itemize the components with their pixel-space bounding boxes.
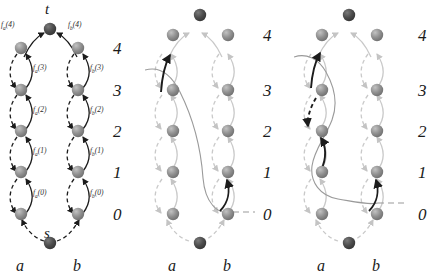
three-panel-graph-figure: t s fa(4) fa(3) fa(2) fa(1) fa(0) fb(4) … (0, 0, 444, 279)
level-label-4: 4 (263, 27, 272, 44)
node-b4 (371, 29, 383, 41)
edge-a2-up-a3 (171, 95, 177, 129)
level-label-4: 4 (418, 27, 427, 44)
level-label-2: 2 (113, 123, 122, 140)
edge-b4-down-b3 (361, 54, 368, 88)
node-a4 (15, 42, 27, 54)
panel-middle: 4 3 2 1 0 a b (145, 0, 295, 279)
node-a1 (167, 166, 179, 178)
level-label-1: 1 (263, 164, 272, 181)
right-panel-nodes (316, 9, 383, 249)
level-label-0: 0 (263, 206, 272, 223)
edge-b2-down-b1 (212, 137, 219, 171)
edge-label-fb2: fb(2) (90, 106, 104, 116)
level-label-3: 3 (113, 82, 122, 99)
edge-highlight-a1-to-a2 (321, 138, 325, 170)
edge-a3-down-a2 (10, 95, 17, 129)
edge-highlight-a3-to-a2 (308, 98, 316, 126)
edge-b3-up-b4 (83, 54, 89, 88)
node-b4 (222, 29, 234, 41)
node-a3 (167, 84, 179, 96)
edge-b4-down-b3 (212, 54, 219, 88)
node-b1 (72, 166, 84, 178)
edge-label-fa1: fa(1) (33, 147, 47, 157)
node-a1 (15, 166, 27, 178)
node-b0 (72, 208, 84, 220)
edge-b1-down-b0 (361, 179, 368, 213)
edge-b4-down-b3 (67, 54, 74, 88)
edge-label-fa3: fa(3) (33, 64, 47, 74)
edge-s-to-a0 (22, 220, 44, 241)
node-a3 (15, 84, 27, 96)
node-t (343, 9, 355, 21)
node-t (194, 9, 206, 21)
edge-b1-up-b2 (83, 137, 89, 171)
edge-s-to-b0 (202, 220, 224, 241)
edge-b3-down-b2 (361, 95, 368, 129)
edge-s-to-b0 (351, 220, 373, 241)
edge-a4-down-a3 (304, 54, 311, 88)
node-a2 (167, 125, 179, 137)
edge-label-fb0: fb(0) (90, 189, 104, 199)
node-b2 (371, 125, 383, 137)
node-b2 (222, 125, 234, 137)
panel-right: 4 3 2 1 0 a b (294, 0, 444, 279)
level-label-3: 3 (418, 82, 427, 99)
edge-b3-up-b4 (228, 54, 234, 88)
edge-a1-up-a2 (26, 137, 32, 171)
edge-a2-up-a3 (320, 95, 326, 129)
node-b0 (222, 208, 234, 220)
edge-a3-up-a4 (26, 54, 32, 88)
edge-highlight-b0-to-b1 (369, 180, 378, 211)
edge-label-fa4: fa(4) (1, 21, 15, 31)
node-s (343, 237, 355, 249)
middle-panel-nodes (167, 9, 234, 249)
edge-b2-down-b1 (361, 137, 368, 171)
node-a4 (167, 29, 179, 41)
edge-a0-up-a1 (26, 179, 32, 213)
edge-a4-down-a3 (10, 54, 17, 88)
level-label-2: 2 (263, 123, 272, 140)
edge-b3-down-b2 (212, 95, 219, 129)
right-panel-trace-curve (294, 56, 406, 204)
edge-a3-down-a2 (155, 95, 162, 129)
edge-a4-to-t (24, 33, 44, 57)
level-label-4: 4 (113, 40, 122, 57)
edge-s-to-a0 (167, 220, 189, 241)
edge-b2-up-b3 (377, 95, 383, 129)
trace-curve (294, 56, 378, 204)
terminal-label-s: s (44, 226, 50, 241)
edge-highlight-b0-to-b1 (220, 180, 229, 211)
edge-b3-up-b4 (377, 54, 383, 88)
node-a0 (15, 208, 27, 220)
node-b3 (222, 84, 234, 96)
edge-b2-up-b3 (228, 95, 234, 129)
node-a2 (316, 125, 328, 137)
node-b0 (371, 208, 383, 220)
node-b1 (371, 166, 383, 178)
edge-a2-down-a1 (10, 137, 17, 171)
edge-s-to-a0 (316, 220, 338, 241)
edge-label-fa0: fa(0) (33, 189, 47, 199)
level-label-3: 3 (263, 82, 272, 99)
column-label-b: b (73, 258, 81, 274)
level-label-0: 0 (418, 206, 427, 223)
panel-left: t s fa(4) fa(3) fa(2) fa(1) fa(0) fb(4) … (0, 0, 145, 279)
terminal-label-t: t (45, 2, 49, 17)
edge-b0-up-b1 (83, 179, 89, 213)
node-b3 (371, 84, 383, 96)
node-a4 (316, 29, 328, 41)
edge-label-fb4: fb(4) (68, 21, 82, 31)
node-s (194, 237, 206, 249)
trace-curve (145, 69, 233, 213)
edge-a1-down-a0 (304, 179, 311, 213)
node-a1 (316, 166, 328, 178)
node-a2 (15, 125, 27, 137)
node-a0 (167, 208, 179, 220)
edge-label-fb3: fb(3) (90, 64, 104, 74)
edge-a2-down-a1 (155, 137, 162, 171)
edge-s-to-b0 (57, 220, 79, 241)
column-label-b: b (372, 258, 380, 274)
node-b2 (72, 125, 84, 137)
node-a0 (316, 208, 328, 220)
